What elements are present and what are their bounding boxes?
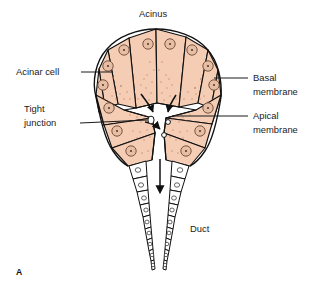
duct [129, 159, 189, 270]
label-apical-membrane-line1: Apical [253, 110, 279, 121]
nucleus [103, 61, 113, 71]
nucleus [187, 45, 197, 55]
secretory-vesicle [166, 120, 171, 125]
nucleus [165, 39, 175, 49]
nucleus [112, 126, 122, 136]
nucleus [126, 146, 136, 156]
nucleus [119, 45, 129, 55]
acinus-diagram: Acinus Acinar cell Tight junction Basal … [0, 0, 322, 284]
secretory-vesicle [162, 133, 167, 138]
label-tight-junction-line1: Tight [24, 103, 45, 114]
nucleus [104, 103, 114, 113]
label-acinar-cell: Acinar cell [16, 66, 59, 77]
nucleus [98, 80, 108, 90]
nucleus [209, 80, 219, 90]
label-basal-membrane-line2: membrane [253, 86, 298, 97]
nucleus [203, 103, 213, 113]
title-acinus: Acinus [139, 8, 167, 19]
label-basal-membrane-line1: Basal [253, 72, 276, 83]
acinus-cell-cluster [94, 29, 221, 166]
nucleus [143, 39, 153, 49]
nucleus [195, 126, 205, 136]
nucleus [203, 61, 213, 71]
panel-letter: A [16, 267, 22, 277]
secretory-vesicle [148, 116, 154, 124]
label-duct: Duct [190, 223, 210, 234]
figure-panel: Acinus Acinar cell Tight junction Basal … [0, 0, 322, 284]
nucleus [181, 146, 191, 156]
label-apical-membrane-line2: membrane [253, 124, 298, 135]
label-tight-junction-line2: junction [23, 117, 56, 128]
